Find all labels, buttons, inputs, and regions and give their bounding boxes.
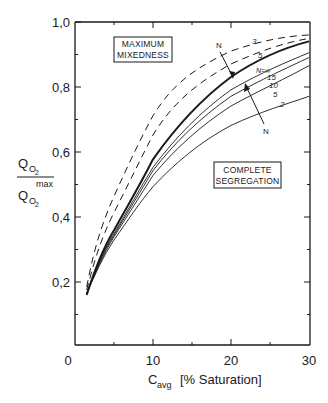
- svg-text:Q: Q: [18, 188, 28, 203]
- y-tick-label: 1,0: [52, 15, 70, 30]
- svg-text:MIXEDNESS: MIXEDNESS: [117, 50, 169, 60]
- chart: 1,0 0,8 0,6 0,4 0,2 0 10 20 30 Q O 2 max…: [0, 0, 328, 403]
- svg-text:C: C: [148, 372, 157, 387]
- y-tick-label: 0,4: [52, 210, 70, 225]
- curve-label-dash3: 3: [252, 37, 257, 46]
- y-tick-labels: 1,0 0,8 0,6 0,4 0,2: [52, 15, 70, 290]
- svg-text:COMPLETE: COMPLETE: [223, 165, 271, 175]
- arrow-top-label: N: [216, 41, 222, 50]
- curve-labels: 3 5 N=∞ 15 10 5 2: [252, 37, 285, 109]
- svg-text:2: 2: [35, 169, 39, 176]
- x-tick-labels: 0 10 20 30: [64, 353, 316, 368]
- x-axis-title: C avg [% Saturation]: [148, 372, 262, 390]
- annotation-maximum-mixedness: MAXIMUM MIXEDNESS: [114, 37, 172, 62]
- x-tick-label: 10: [146, 353, 160, 368]
- svg-text:[% Saturation]: [% Saturation]: [180, 372, 262, 387]
- y-tick-label: 0,8: [52, 80, 70, 95]
- y-tick-label: 0,2: [52, 275, 70, 290]
- y-tick-label: 0,6: [52, 145, 70, 160]
- curve-label-dash5: 5: [258, 51, 263, 60]
- curve-label-5: 5: [273, 90, 278, 99]
- x-tick-label: 30: [302, 353, 316, 368]
- x-tick-label: 20: [224, 353, 238, 368]
- svg-text:avg: avg: [157, 380, 172, 390]
- curve-solid-2: [87, 96, 309, 293]
- y-axis-title: Q O 2 max Q O 2: [17, 156, 54, 208]
- svg-text:SEGREGATION: SEGREGATION: [216, 176, 280, 186]
- arrowhead-up-icon: [244, 83, 250, 92]
- curve-label-10: 10: [269, 81, 278, 90]
- svg-text:2: 2: [35, 201, 39, 208]
- arrow-bottom-label: N: [263, 127, 269, 136]
- annotation-complete-segregation: COMPLETE SEGREGATION: [214, 162, 281, 188]
- svg-text:Q: Q: [18, 156, 28, 171]
- curve-label-2: 2: [279, 100, 285, 109]
- x-tick-label: 0: [64, 353, 71, 368]
- svg-text:max: max: [36, 179, 54, 189]
- svg-text:MAXIMUM: MAXIMUM: [122, 39, 164, 49]
